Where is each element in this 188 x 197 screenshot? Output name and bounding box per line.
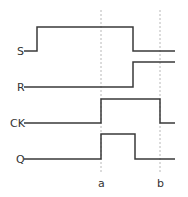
- signal-label-r: R: [17, 81, 25, 94]
- marker-label-b: b: [157, 177, 164, 190]
- marker-label-a: a: [98, 177, 105, 190]
- signal-label-ck: CK: [10, 117, 26, 130]
- signal-label-q: Q: [16, 153, 25, 166]
- waveform-q: [24, 134, 175, 159]
- timing-diagram: S R CK Q a b: [0, 0, 188, 197]
- waveform-ck: [24, 99, 175, 123]
- signal-label-s: S: [17, 45, 24, 58]
- waveform-r: [24, 62, 175, 87]
- waveform-s: [24, 27, 175, 51]
